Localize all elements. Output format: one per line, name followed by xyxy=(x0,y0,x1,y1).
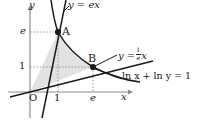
point-B-label: B xyxy=(88,53,96,64)
figure-canvas xyxy=(0,0,197,134)
point-A-label: A xyxy=(62,26,70,37)
y-tick-label-1: 1 xyxy=(19,61,25,71)
label-hyperbola-equation: ln x + ln y = 1 xyxy=(122,71,191,81)
math-figure: y x O 1 e 1 e A B y = ex y =1ex ln x + l… xyxy=(0,0,197,134)
shaded-region xyxy=(30,32,93,92)
x-axis-label: x xyxy=(121,92,127,102)
y-tick-label-e: e xyxy=(20,26,26,36)
slope-label-prefix: y = xyxy=(118,50,135,61)
slope-label-suffix: x xyxy=(141,50,147,61)
origin-label: O xyxy=(29,93,37,103)
label-line-y-equals-x-over-e: y =1ex xyxy=(118,47,147,61)
x-axis-arrow xyxy=(128,90,133,95)
y-axis-label: y xyxy=(29,0,35,10)
x-tick-label-1: 1 xyxy=(54,93,60,103)
label-line-y-equals-ex: y = ex xyxy=(68,0,100,10)
leader-line-to-slope-label xyxy=(95,55,117,66)
x-tick-label-e: e xyxy=(90,93,96,103)
point-A-marker xyxy=(55,29,61,35)
